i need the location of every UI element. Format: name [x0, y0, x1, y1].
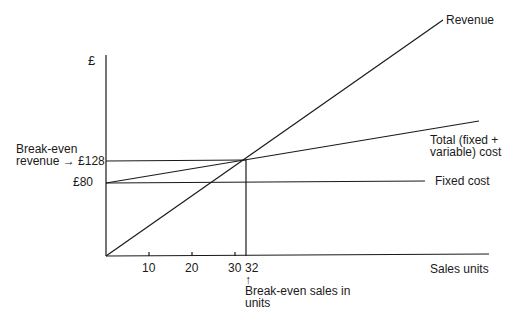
y-axis-label: £	[88, 54, 95, 67]
break-even-revenue-label-2: revenue → £128	[16, 155, 105, 168]
fixed-cost-line	[106, 181, 425, 183]
x-axis	[106, 254, 489, 256]
x-tick-label-30: 30	[228, 262, 241, 275]
total-cost-line	[106, 121, 479, 183]
y-tick-80: £80	[73, 176, 93, 189]
x-tick-label-10: 10	[142, 262, 155, 275]
break-even-revenue-line	[106, 160, 246, 161]
x-axis-label: Sales units	[430, 263, 489, 276]
revenue-line	[106, 20, 443, 256]
revenue-label: Revenue	[446, 14, 494, 27]
total-cost-label-2: variable) cost	[430, 146, 501, 159]
break-even-units-label-2: units	[245, 297, 270, 310]
fixed-cost-label: Fixed cost	[435, 175, 490, 188]
x-tick-label-20: 20	[185, 262, 198, 275]
